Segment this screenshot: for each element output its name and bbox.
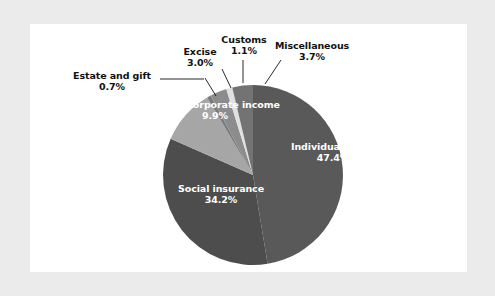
pie-label-individual-income: Individual income 47.4% [291,141,375,163]
pie-label-social-insurance-text: Social insurance [178,183,264,194]
leader-line-estate-and-gift [205,78,216,96]
pie-label-estate-and-gift-value: 0.7% [64,81,160,92]
pie-label-excise-value: 3.0% [178,57,222,68]
pie-label-miscellaneous-value: 3.7% [272,51,352,62]
pie-label-corporate-income: Corporate income 9.9% [186,99,244,121]
figure-canvas: Individual income 47.4% Social insurance… [0,0,495,296]
pie-label-customs: Customs 1.1% [220,34,268,56]
pie-label-miscellaneous: Miscellaneous 3.7% [272,40,352,62]
leader-line-miscellaneous [265,60,281,84]
pie-label-estate-and-gift-text: Estate and gift [73,70,151,81]
pie-label-social-insurance-value: 34.2% [176,194,266,205]
pie-label-individual-income-text: Individual income [291,141,384,152]
pie-label-customs-text: Customs [221,34,266,45]
pie-label-customs-value: 1.1% [220,45,268,56]
pie-label-excise-text: Excise [183,46,216,57]
pie-label-miscellaneous-text: Miscellaneous [275,40,349,51]
pie-label-corporate-income-value: 9.9% [186,110,244,121]
pie-label-individual-income-value: 47.4% [291,152,375,163]
pie-label-estate-and-gift: Estate and gift 0.7% [64,70,160,92]
pie-label-corporate-income-text: Corporate income [186,99,280,110]
leader-line-excise [222,69,231,88]
pie-slice-individual-income[interactable] [253,85,343,264]
pie-label-excise: Excise 3.0% [178,46,222,68]
pie-label-social-insurance: Social insurance 34.2% [176,183,266,205]
pie-chart: Individual income 47.4% Social insurance… [0,0,495,296]
